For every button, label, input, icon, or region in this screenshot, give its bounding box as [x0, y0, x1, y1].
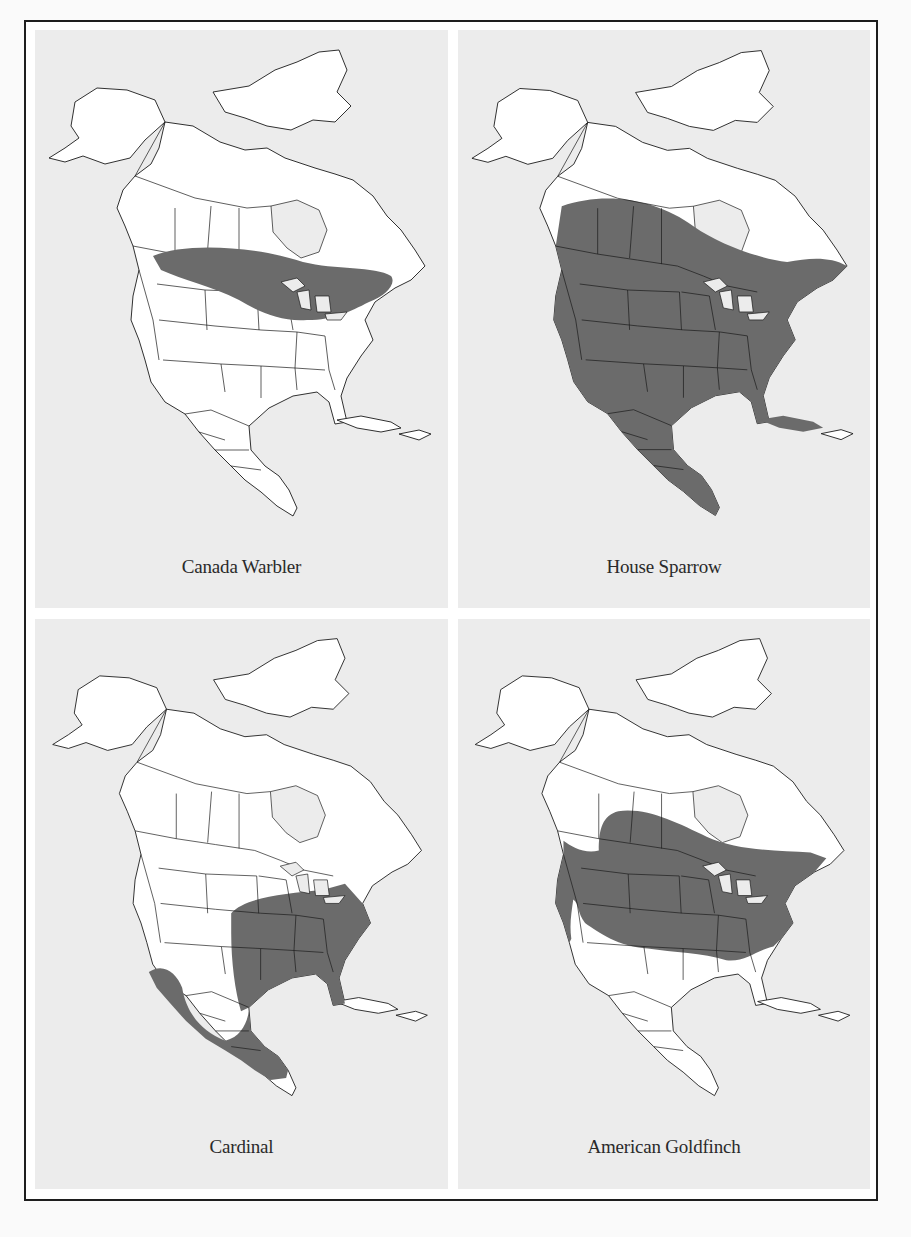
map-panel-american-goldfinch: American Goldfinch	[458, 619, 870, 1189]
north-america-map	[35, 619, 448, 1129]
map-caption: Cardinal	[35, 1136, 448, 1158]
map-caption: House Sparrow	[458, 556, 870, 578]
map-caption: American Goldfinch	[458, 1136, 870, 1158]
map-panel-cardinal: Cardinal	[35, 619, 448, 1189]
north-america-map	[35, 30, 448, 550]
map-caption: Canada Warbler	[35, 556, 448, 578]
map-panel-canada-warbler: Canada Warbler	[35, 30, 448, 608]
map-panel-house-sparrow: House Sparrow	[458, 30, 870, 608]
north-america-map	[458, 619, 870, 1129]
north-america-map	[458, 30, 870, 550]
landmass	[53, 639, 428, 1096]
range-area-east	[231, 884, 370, 1012]
figure-frame: Canada Warbler	[24, 20, 878, 1201]
